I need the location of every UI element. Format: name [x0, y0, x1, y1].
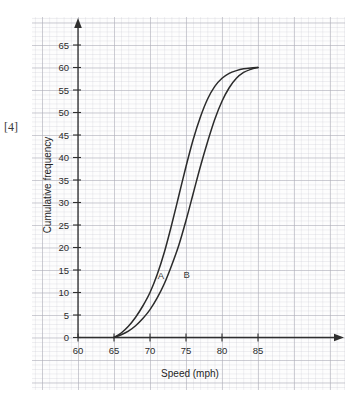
y-axis-title: Cumulative frequency [42, 137, 53, 234]
y-tick-label: 50 [58, 107, 69, 118]
x-tick-label: 70 [145, 345, 156, 356]
y-tick-label: 65 [58, 40, 69, 51]
curve-label-b: B [184, 269, 190, 280]
x-axis-title: Speed (mph) [161, 368, 219, 379]
cumulative-frequency-chart: 0 5 10 15 20 25 30 35 40 45 50 55 [0, 0, 361, 409]
y-axis [74, 18, 82, 338]
y-tick-label: 55 [58, 85, 69, 96]
x-tick-label: 85 [253, 345, 264, 356]
y-tick-label: 10 [58, 287, 69, 298]
y-tick-label: 0 [64, 332, 69, 343]
x-tick-label: 80 [217, 345, 228, 356]
y-tick-label: 35 [58, 175, 69, 186]
curve-a [114, 68, 258, 338]
curve-label-a: A [158, 270, 165, 281]
y-tick-label: 25 [58, 220, 69, 231]
curve-b [114, 68, 258, 338]
y-axis-arrow-icon [74, 18, 82, 28]
x-tick-label: 65 [109, 345, 120, 356]
x-tick-label: 60 [73, 345, 84, 356]
y-tick-label: 20 [58, 242, 69, 253]
y-tick-label: 15 [58, 265, 69, 276]
y-tick-label: 45 [58, 130, 69, 141]
chart-page: [4] 0 5 10 15 20 25 30 [0, 0, 361, 409]
y-tick-label: 60 [58, 62, 69, 73]
y-tick-label: 30 [58, 197, 69, 208]
x-tick-label: 75 [181, 345, 192, 356]
x-axis-arrow-icon [334, 334, 344, 342]
y-tick-label: 5 [64, 310, 69, 321]
y-tick-label: 40 [58, 152, 69, 163]
